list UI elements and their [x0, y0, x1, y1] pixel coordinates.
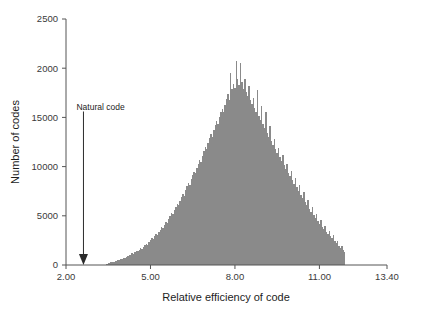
histogram-bar [126, 257, 127, 265]
histogram-bar [262, 124, 263, 265]
histogram-bar [337, 241, 338, 265]
histogram-bar [238, 85, 239, 265]
histogram-bar [236, 61, 237, 265]
x-tick-label: 5.00 [141, 271, 160, 282]
histogram-bar [272, 145, 273, 265]
histogram-bar [327, 234, 328, 265]
histogram-bar [148, 242, 149, 265]
histogram-bar [341, 246, 342, 265]
histogram-bar [219, 117, 220, 265]
histogram-bar [220, 112, 221, 265]
histogram-bar [299, 185, 300, 265]
histogram-bar [302, 198, 303, 265]
histogram-bar [261, 106, 262, 265]
x-tick-label: 2.00 [57, 271, 76, 282]
y-tick-label: 2000 [37, 63, 58, 74]
histogram-bar [334, 241, 335, 265]
histogram-bar [226, 99, 227, 265]
histogram-bar [202, 156, 203, 265]
histogram-bar [153, 239, 154, 265]
histogram-bar [137, 251, 138, 265]
histogram-bar [295, 178, 296, 265]
histogram-bar [174, 210, 175, 265]
histogram-bar [265, 112, 266, 265]
histogram-bar [306, 205, 307, 265]
histogram-bar [309, 209, 310, 265]
histogram-bar [271, 141, 272, 265]
histogram-bar [274, 139, 275, 265]
histogram-bar [186, 186, 187, 265]
histogram-bar [164, 225, 165, 265]
histogram-bar [234, 88, 235, 265]
histogram-bar [244, 79, 245, 265]
histogram-bar [217, 124, 218, 265]
histogram-bar [177, 204, 178, 265]
histogram-bar [130, 255, 131, 265]
histogram-bar [331, 238, 332, 265]
histogram-bar [185, 190, 186, 265]
histogram-bar [240, 63, 241, 265]
y-tick-label: 10000 [32, 161, 58, 172]
histogram-bar [179, 201, 180, 265]
histogram-bar [136, 251, 137, 265]
histogram-bar [285, 169, 286, 265]
histogram-bar [169, 216, 170, 265]
histogram-bar [248, 86, 249, 265]
histogram-bar [203, 151, 204, 265]
histogram-bar [143, 247, 144, 265]
histogram-bar [293, 184, 294, 265]
histogram-bar [133, 254, 134, 265]
histogram-bar [307, 200, 308, 265]
histogram-bar [229, 100, 230, 265]
histogram-bar [296, 187, 297, 265]
histogram-bar [303, 192, 304, 265]
histogram-bar [227, 94, 228, 265]
histogram-bar [195, 173, 196, 265]
histogram-bar [116, 261, 117, 265]
histogram-bar [281, 161, 282, 265]
histogram-bar [165, 222, 166, 265]
histogram-bar [209, 138, 210, 265]
histogram-bar [258, 116, 259, 265]
histogram-bar [243, 89, 244, 265]
histogram-bar [291, 171, 292, 265]
histogram-bar [147, 245, 148, 265]
histogram-bar [282, 155, 283, 265]
histogram-bar [113, 262, 114, 265]
histogram-bar [119, 260, 120, 265]
histogram-bar [323, 229, 324, 265]
histogram-bar [192, 175, 193, 265]
histogram-bar [322, 227, 323, 265]
histogram-bar [278, 148, 279, 265]
histogram-bar [140, 248, 141, 265]
histogram-bar [288, 173, 289, 266]
histogram-bar [189, 185, 190, 265]
histogram-bar [338, 246, 339, 265]
y-tick-label: 0 [53, 259, 58, 270]
histogram-bar [167, 223, 168, 265]
histogram-bar [233, 84, 234, 265]
histogram-bar [230, 73, 231, 265]
histogram-bar [160, 230, 161, 265]
histogram-bar [199, 160, 200, 265]
histogram-bar [317, 221, 318, 265]
histogram-bar [120, 259, 121, 265]
histogram-bar [276, 153, 277, 265]
histogram-bar [129, 255, 130, 265]
histogram-bar [215, 125, 216, 265]
histogram-bar [184, 196, 185, 265]
histogram-bar [250, 100, 251, 265]
histogram-bar [182, 194, 183, 265]
histogram-bar [313, 215, 314, 265]
histogram-bar [255, 112, 256, 266]
x-tick-label: 11.00 [308, 271, 331, 282]
histogram-bar [231, 89, 232, 265]
histogram-bar [305, 202, 306, 265]
histogram-bar [326, 232, 327, 265]
histogram-bar [253, 98, 254, 265]
y-tick-label: 5000 [37, 210, 58, 221]
histogram-bar [344, 252, 345, 265]
y-tick-label: 2500 [37, 13, 58, 24]
histogram-bar [144, 245, 145, 265]
histogram-bar [158, 232, 159, 265]
